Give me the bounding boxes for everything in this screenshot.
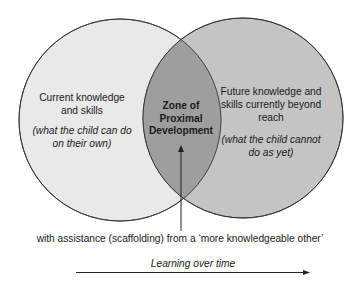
left-label-line2: and skills — [39, 104, 125, 117]
right-label-line1: Future knowledge and — [221, 85, 322, 98]
right-circle-note: (what the child cannot do as yet) — [221, 133, 320, 159]
right-circle-label: Future knowledge and skills currently be… — [221, 85, 322, 124]
timeline-arrow — [76, 270, 310, 275]
left-label-line1: Current knowledge — [39, 91, 125, 104]
right-note-line1: (what the child cannot — [221, 133, 320, 146]
left-circle-label: Current knowledge and skills — [39, 91, 125, 117]
zpd-line1: Zone of — [149, 100, 213, 113]
left-note-line1: (what the child can do — [32, 124, 131, 137]
left-note-line2: on their own) — [32, 137, 131, 150]
right-note-line2: do as yet) — [221, 146, 320, 159]
zpd-label: Zone of Proximal Development — [149, 100, 213, 138]
scaffolding-caption: with assistance (scaffolding) from a ‘mo… — [37, 232, 324, 245]
zpd-line3: Development — [149, 125, 213, 138]
right-label-line2: skills currently beyond — [221, 98, 322, 111]
timeline-label: Learning over time — [151, 257, 235, 270]
zpd-line2: Proximal — [149, 113, 213, 126]
right-label-line3: reach — [221, 111, 322, 124]
left-circle-note: (what the child can do on their own) — [32, 124, 131, 150]
